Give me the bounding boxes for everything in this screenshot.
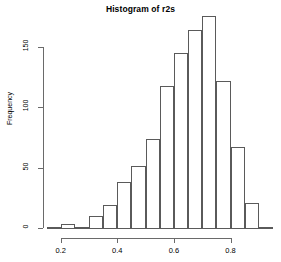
histogram-bar [174, 53, 188, 228]
histogram-bar [216, 81, 230, 228]
x-tick-mark [61, 238, 62, 243]
y-tick-mark [38, 168, 43, 169]
histogram-bar [231, 147, 245, 228]
y-tick-mark [38, 228, 43, 229]
histogram-bar [146, 139, 160, 228]
y-tick-label: 100 [22, 95, 29, 117]
x-tick-mark [231, 238, 232, 243]
x-tick-label: 0.4 [102, 246, 132, 255]
x-tick-label: 0.6 [159, 246, 189, 255]
x-tick-mark [174, 238, 175, 243]
bars-baseline [47, 228, 274, 229]
histogram-plot: Histogram of r2s Frequency 050100150 0.2… [0, 0, 281, 262]
histogram-bar [188, 30, 202, 228]
y-tick-mark [38, 47, 43, 48]
histogram-bar [202, 16, 216, 228]
histogram-bar [245, 203, 259, 228]
y-tick-label: 50 [22, 155, 29, 177]
x-tick-label: 0.2 [46, 246, 76, 255]
y-tick-mark [38, 107, 43, 108]
y-tick-label: 150 [22, 35, 29, 57]
y-axis-label: Frequency [6, 69, 13, 149]
x-tick-label: 0.8 [216, 246, 246, 255]
histogram-bar [131, 166, 145, 228]
y-axis-line [43, 47, 44, 228]
chart-title: Histogram of r2s [0, 4, 281, 14]
histogram-bar [89, 216, 103, 228]
y-tick-label: 0 [22, 216, 29, 238]
x-axis-line [61, 238, 231, 239]
x-tick-mark [117, 238, 118, 243]
histogram-bar [117, 182, 131, 228]
histogram-bar [103, 205, 117, 228]
histogram-bar [160, 86, 174, 228]
